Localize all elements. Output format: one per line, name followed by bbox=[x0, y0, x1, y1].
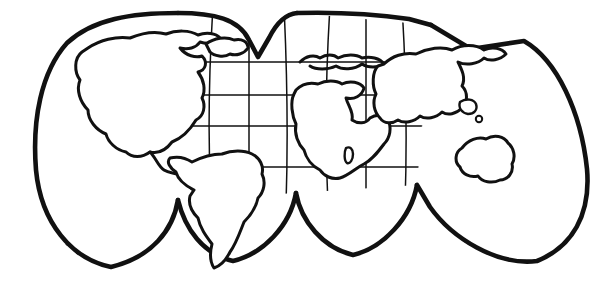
landmass-new-guinea bbox=[459, 100, 476, 114]
island-small-icon bbox=[476, 116, 482, 122]
world-map-figure: World Map — Interrupted Projection (Outl… bbox=[0, 0, 610, 284]
landmass-australia bbox=[456, 136, 514, 182]
landmass-greenland bbox=[206, 38, 248, 56]
world-map-drawing bbox=[0, 0, 610, 284]
landmass-madagascar bbox=[345, 147, 353, 163]
